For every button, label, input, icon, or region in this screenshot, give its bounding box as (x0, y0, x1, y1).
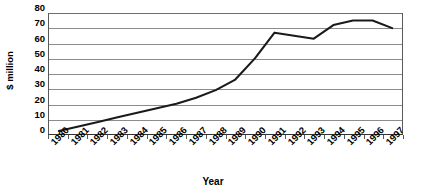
plot-area (48, 13, 403, 135)
y-tick-label: 30 (19, 79, 45, 89)
y-tick-label: 50 (19, 49, 45, 59)
x-tick (403, 135, 404, 139)
y-tick-label: 10 (19, 110, 45, 120)
y-axis-title-label: $ million (4, 51, 15, 90)
y-tick-label: 60 (19, 34, 45, 44)
data-series-line (49, 13, 402, 134)
y-axis-title: $ million (0, 0, 18, 140)
y-tick-label: 80 (19, 3, 45, 13)
y-tick-label: 70 (19, 18, 45, 28)
y-tick-label: 40 (19, 64, 45, 74)
y-axis-tick-labels: 01020304050607080 (18, 8, 48, 141)
y-tick-label: 20 (19, 95, 45, 105)
x-axis-tick-labels: 1980198119821983198419851986198719881989… (48, 140, 426, 176)
x-axis-title: Year (0, 176, 426, 187)
line-chart-figure: $ million 01020304050607080 198019811982… (0, 0, 426, 194)
y-tick-label: 0 (19, 125, 45, 135)
series-polyline (59, 21, 392, 131)
